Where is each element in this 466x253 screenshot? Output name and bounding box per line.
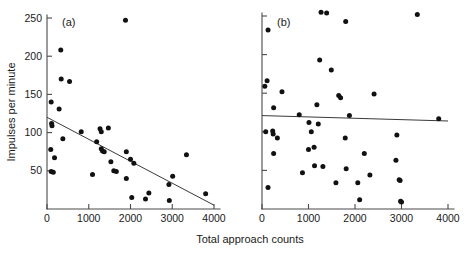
- data-point: [312, 145, 317, 150]
- y-tick-label-50: 50: [30, 164, 42, 176]
- data-point: [128, 157, 133, 162]
- data-point: [271, 105, 276, 110]
- data-point: [184, 152, 189, 157]
- y-tick-label-150: 150: [24, 88, 42, 100]
- y-tick-label-250: 250: [24, 12, 42, 24]
- plot-svg: 5010015020025001000200030004000(a) 01000…: [0, 0, 466, 253]
- data-point: [436, 116, 441, 121]
- data-point: [316, 122, 321, 127]
- data-point: [309, 129, 314, 134]
- data-point: [329, 68, 334, 73]
- x-tick-label-(a)-0: 0: [44, 212, 50, 224]
- x-tick-label-(a)-4000: 4000: [202, 212, 226, 224]
- data-point: [48, 147, 53, 152]
- data-point: [131, 161, 136, 166]
- data-point: [333, 180, 338, 185]
- data-point: [203, 191, 208, 196]
- panel-a: 5010015020025001000200030004000(a): [24, 12, 225, 224]
- y-axis-title: Impulses per minute: [5, 62, 17, 161]
- data-point: [300, 170, 305, 175]
- x-tick-label-(b)-3000: 3000: [390, 212, 414, 224]
- data-point: [49, 100, 54, 105]
- data-point: [314, 102, 319, 107]
- data-point: [372, 91, 377, 96]
- data-point: [399, 200, 404, 205]
- x-tick-label-(b)-4000: 4000: [436, 212, 460, 224]
- data-point: [362, 151, 367, 156]
- y-tick-label-200: 200: [24, 50, 42, 62]
- data-point: [338, 95, 343, 100]
- trend-line-(b): [262, 116, 448, 121]
- data-point: [297, 112, 302, 117]
- x-tick-label-(a)-2000: 2000: [119, 212, 143, 224]
- data-point: [347, 113, 352, 118]
- data-point: [271, 151, 276, 156]
- data-point: [265, 78, 270, 83]
- data-point: [166, 182, 171, 187]
- data-point: [124, 149, 129, 154]
- data-point: [306, 147, 311, 152]
- data-point: [306, 120, 311, 125]
- data-point: [59, 77, 64, 82]
- scatter-figure: 5010015020025001000200030004000(a) 01000…: [0, 0, 466, 253]
- data-point: [58, 48, 63, 53]
- data-point: [279, 89, 284, 94]
- data-point: [90, 172, 95, 177]
- data-point: [394, 132, 399, 137]
- data-point: [124, 176, 129, 181]
- data-point: [52, 155, 57, 160]
- data-point: [51, 170, 56, 175]
- data-point: [266, 27, 271, 32]
- data-point: [94, 139, 99, 144]
- x-tick-label-(a)-1000: 1000: [77, 212, 101, 224]
- data-point: [266, 185, 271, 190]
- data-point: [57, 106, 62, 111]
- panel-b: 01000200030004000(b): [259, 10, 460, 224]
- data-point: [143, 197, 148, 202]
- data-point: [99, 129, 104, 134]
- y-tick-label-100: 100: [24, 126, 42, 138]
- data-point: [60, 136, 65, 141]
- data-point: [129, 195, 134, 200]
- panel-label-b: (b): [277, 16, 290, 28]
- data-point: [262, 84, 267, 89]
- data-point: [357, 197, 362, 202]
- x-axis-title: Total approach counts: [196, 233, 304, 245]
- data-point: [106, 126, 111, 131]
- x-tick-label-(b)-1000: 1000: [297, 212, 321, 224]
- data-point: [167, 198, 172, 203]
- data-point: [415, 12, 420, 17]
- x-tick-label-(a)-3000: 3000: [161, 212, 185, 224]
- panel-label-a: (a): [62, 16, 75, 28]
- data-point: [398, 178, 403, 183]
- data-point: [317, 58, 322, 63]
- data-point: [355, 180, 360, 185]
- data-point: [343, 135, 348, 140]
- data-point: [275, 135, 280, 140]
- data-point: [108, 159, 113, 164]
- data-point: [123, 18, 128, 23]
- data-point: [271, 132, 276, 137]
- data-point: [102, 149, 107, 154]
- data-point: [114, 169, 119, 174]
- data-point: [50, 123, 55, 128]
- data-point: [79, 129, 84, 134]
- x-tick-label-(b)-2000: 2000: [343, 212, 367, 224]
- data-point: [324, 10, 329, 15]
- data-point: [393, 158, 398, 163]
- data-point: [146, 190, 151, 195]
- data-point: [312, 163, 317, 168]
- data-point: [67, 79, 72, 84]
- data-point: [320, 164, 325, 169]
- data-point: [367, 173, 372, 178]
- data-point: [263, 129, 268, 134]
- data-point: [343, 19, 348, 24]
- x-tick-label-(b)-0: 0: [259, 212, 265, 224]
- data-point: [170, 174, 175, 179]
- data-point: [344, 166, 349, 171]
- data-point: [319, 10, 324, 15]
